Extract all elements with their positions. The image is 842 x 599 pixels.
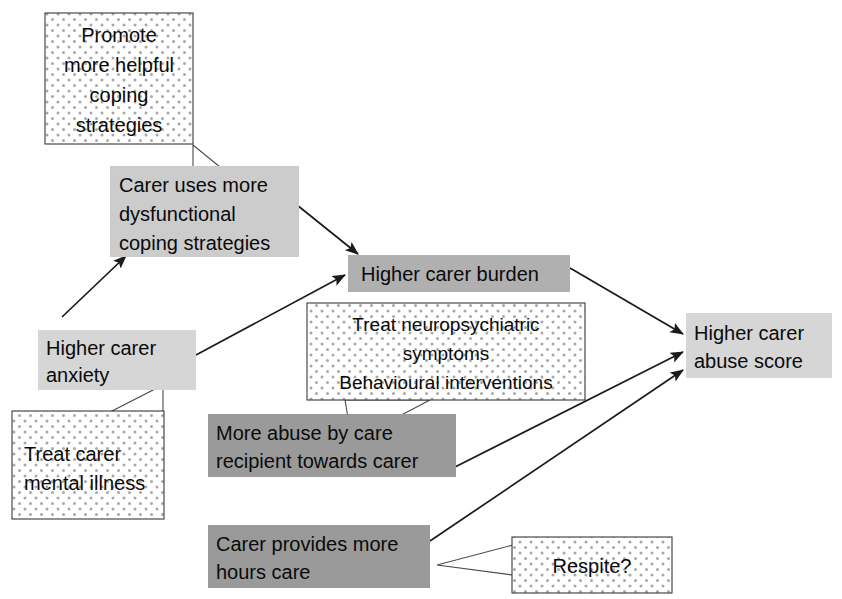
node-dysfunctional-coping[interactable]: Carer uses more dysfunctional coping str…: [110, 166, 299, 257]
node-more-hours-care-line-1: Carer provides more: [216, 533, 398, 555]
node-carer-anxiety-line-2: anxiety: [46, 364, 109, 386]
node-treat-mental-illness[interactable]: Treat carer mental illness: [12, 411, 164, 519]
node-carer-abuse-score-line-1: Higher carer: [694, 322, 804, 344]
node-more-abuse-by-recipient-line-2: recipient towards carer: [216, 450, 419, 472]
node-carer-anxiety[interactable]: Higher carer anxiety: [38, 330, 196, 390]
node-treat-mental-illness-line-2: mental illness: [24, 472, 145, 494]
node-promote-coping-line-1: Promote: [81, 24, 157, 46]
node-more-hours-care-line-2: hours care: [216, 561, 311, 583]
node-treat-neuropsychiatric[interactable]: Treat neuropsychiatric symptoms Behaviou…: [307, 303, 585, 400]
node-more-hours-care[interactable]: Carer provides more hours care: [208, 525, 430, 588]
callout-tail-respite: [437, 545, 513, 575]
edge-burden-to-score: [570, 268, 683, 334]
node-more-abuse-by-recipient-line-1: More abuse by care: [216, 422, 393, 444]
node-dysfunctional-coping-line-3: coping strategies: [119, 232, 270, 254]
node-treat-mental-illness-line-1: Treat carer: [24, 443, 121, 465]
node-treat-neuropsychiatric-line-2: symptoms: [403, 343, 490, 364]
node-respite-line-1: Respite?: [553, 555, 632, 577]
node-respite[interactable]: Respite?: [512, 537, 672, 593]
node-more-abuse-by-recipient[interactable]: More abuse by care recipient towards car…: [208, 414, 456, 477]
node-promote-coping-line-4: strategies: [76, 114, 163, 136]
node-carer-abuse-score[interactable]: Higher carer abuse score: [686, 313, 832, 378]
node-carer-abuse-score-line-2: abuse score: [694, 350, 803, 372]
node-promote-coping[interactable]: Promote more helpful coping strategies: [45, 13, 193, 144]
node-dysfunctional-coping-line-2: dysfunctional: [119, 203, 236, 225]
node-treat-neuropsychiatric-line-1: Treat neuropsychiatric: [352, 314, 539, 335]
node-carer-burden-line-1: Higher carer burden: [361, 263, 539, 285]
node-dysfunctional-coping-line-1: Carer uses more: [119, 174, 268, 196]
edge-coping-to-burden: [297, 205, 358, 254]
node-promote-coping-line-3: coping: [90, 84, 149, 106]
edge-anxiety-to-coping: [62, 256, 126, 317]
node-carer-anxiety-line-1: Higher carer: [46, 337, 156, 359]
diagram-root: Promote more helpful coping strategies C…: [0, 0, 842, 599]
diagram-canvas: Promote more helpful coping strategies C…: [0, 0, 842, 599]
node-treat-neuropsychiatric-line-3: Behavioural interventions: [339, 372, 552, 393]
node-promote-coping-line-2: more helpful: [64, 54, 174, 76]
node-carer-burden[interactable]: Higher carer burden: [348, 255, 570, 292]
